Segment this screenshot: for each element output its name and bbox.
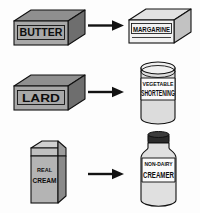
cream-label-line-2: CREAM xyxy=(33,176,57,185)
lard-box: LARD xyxy=(14,75,85,110)
carton-gable-top xyxy=(31,141,58,148)
non-dairy-creamer-jar: NON-DAIRY CREAMER xyxy=(141,132,176,207)
margarine-box: MARGARINE xyxy=(129,9,191,43)
butter-label: BUTTER xyxy=(20,26,63,38)
arrow-head xyxy=(112,87,124,98)
substitution-row: REAL CREAM NON-DAIRY CREAMER xyxy=(0,128,200,213)
substitution-row: BUTTER MARGARINE xyxy=(0,0,200,60)
carton-gable-side xyxy=(58,141,66,156)
jar-cap-top xyxy=(148,132,169,138)
lard-label: LARD xyxy=(22,92,60,104)
creamer-label-line-1: NON-DAIRY xyxy=(145,161,173,167)
substitution-row: LARD VEGETABLE SHORTENING xyxy=(0,58,200,130)
creamer-label-line-2: CREAMER xyxy=(143,170,174,180)
arrow-head xyxy=(112,20,124,31)
carton-side-face xyxy=(58,156,66,203)
arrow-right-icon xyxy=(88,169,124,180)
shortening-label-line-1: VEGETABLE xyxy=(143,81,174,87)
vegetable-shortening-can: VEGETABLE SHORTENING xyxy=(141,62,175,124)
butter-box: BUTTER xyxy=(14,10,85,45)
shortening-label-line-2: SHORTENING xyxy=(141,88,175,98)
arrow-right-icon xyxy=(88,20,124,31)
arrow-right-icon xyxy=(88,87,124,98)
can-lid xyxy=(141,62,175,74)
arrow-head xyxy=(112,169,124,180)
row-graphics: BUTTER MARGARINE xyxy=(0,0,200,60)
row-graphics: LARD VEGETABLE SHORTENING xyxy=(0,58,200,130)
real-cream-carton: REAL CREAM xyxy=(31,141,66,203)
cream-label-line-1: REAL xyxy=(37,167,53,173)
substitution-diagram: BUTTER MARGARINE xyxy=(0,0,200,213)
margarine-label: MARGARINE xyxy=(133,25,170,34)
row-graphics: REAL CREAM NON-DAIRY CREAMER xyxy=(0,128,200,213)
carton-shoulder xyxy=(31,148,58,156)
